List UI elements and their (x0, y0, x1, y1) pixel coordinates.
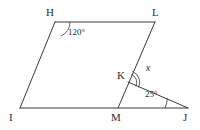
vertex-label-M: M (111, 112, 121, 123)
angle-label-x: x (146, 64, 150, 74)
vertex-label-I: I (9, 112, 13, 123)
geometry-figure: H L I M J K 120° x 25° (0, 0, 200, 130)
vertex-label-L: L (152, 7, 159, 18)
vertex-label-J: J (183, 112, 187, 123)
geometry-canvas (0, 0, 200, 130)
angle-label-120: 120° (68, 28, 85, 37)
angle-arc-J (165, 98, 167, 108)
angle-label-25: 25° (145, 90, 158, 99)
segment-HI (20, 22, 55, 108)
vertex-label-H: H (46, 7, 54, 18)
segment-KJ (128, 82, 188, 108)
vertex-label-K: K (117, 70, 125, 81)
